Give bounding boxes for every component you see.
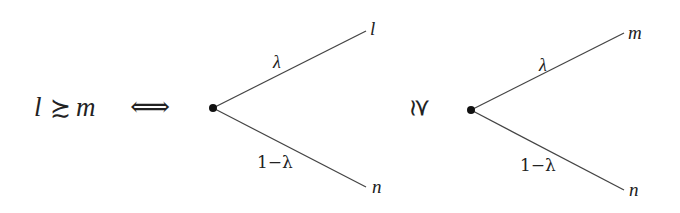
relation-rhs: m: [76, 92, 96, 123]
right-top-outcome: m: [628, 22, 642, 44]
weak-preference-symbol-rotated: ≿: [407, 98, 435, 118]
equivalence-arrow: ⟺: [130, 90, 170, 123]
lottery-trees: [0, 0, 680, 213]
right-bottom-branch: [471, 110, 624, 190]
left-bottom-probability: 1−λ: [257, 152, 293, 172]
left-top-outcome: l: [370, 18, 375, 40]
relation-lhs: l: [34, 92, 42, 123]
left-top-branch: [213, 31, 366, 108]
right-top-branch: [471, 33, 624, 110]
right-bottom-outcome: n: [629, 179, 639, 201]
right-top-probability: λ: [539, 55, 547, 76]
right-bottom-probability: 1−λ: [520, 155, 556, 175]
left-bottom-outcome: n: [372, 176, 382, 198]
left-top-probability: λ: [273, 52, 281, 73]
left-bottom-branch: [213, 108, 366, 187]
left-chance-node: [209, 104, 217, 112]
preference-symbol: ≿: [50, 93, 71, 122]
right-chance-node: [467, 106, 475, 114]
